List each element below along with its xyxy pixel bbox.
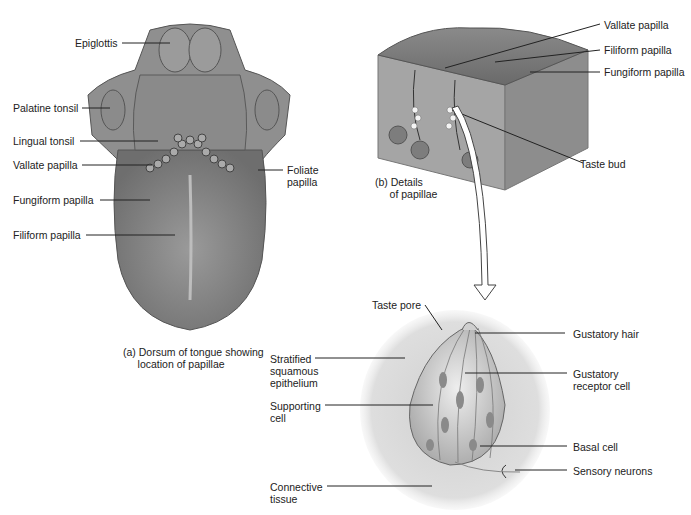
epiglottis-right bbox=[189, 28, 221, 72]
label-filiform-papilla-b: Filiform papilla bbox=[604, 44, 672, 56]
label-filiform-papilla-a: Filiform papilla bbox=[13, 229, 81, 241]
label-lingual-tonsil: Lingual tonsil bbox=[13, 135, 74, 147]
palatine-tonsil-right bbox=[255, 90, 279, 130]
median-sulcus bbox=[190, 175, 191, 300]
label-vallate-papilla-a: Vallate papilla bbox=[13, 159, 78, 171]
taste-bud-illustration bbox=[360, 310, 550, 510]
label-epiglottis: Epiglottis bbox=[75, 37, 118, 49]
taste-anatomy-figure: Epiglottis Palatine tonsil Lingual tonsi… bbox=[0, 0, 691, 515]
label-supporting-cell: Supporting cell bbox=[270, 400, 321, 424]
illustration-canvas bbox=[0, 0, 691, 515]
label-basal-cell: Basal cell bbox=[573, 441, 618, 453]
label-palatine-tonsil: Palatine tonsil bbox=[13, 102, 78, 114]
label-sensory-neurons: Sensory neurons bbox=[573, 465, 652, 477]
label-stratified-squamous-epithelium: Stratified squamous epithelium bbox=[270, 353, 318, 389]
caption-panel-a: (a) Dorsum of tongue showing location of… bbox=[123, 346, 264, 370]
label-gustatory-hair: Gustatory hair bbox=[573, 328, 639, 340]
label-connective-tissue: Connective tissue bbox=[270, 481, 323, 505]
label-taste-pore: Taste pore bbox=[372, 299, 421, 311]
label-fungiform-papilla-b: Fungiform papilla bbox=[604, 66, 685, 78]
label-vallate-papilla-b: Vallate papilla bbox=[604, 19, 669, 31]
label-fungiform-papilla-a: Fungiform papilla bbox=[13, 194, 94, 206]
papillae-block-illustration bbox=[378, 28, 588, 190]
epiglottis-left bbox=[159, 28, 191, 72]
label-gustatory-receptor-cell: Gustatory receptor cell bbox=[573, 368, 630, 392]
palatine-tonsil-left bbox=[101, 90, 125, 130]
label-taste-bud: Taste bud bbox=[580, 158, 626, 170]
caption-panel-b: (b) Details of papillae bbox=[375, 176, 437, 200]
tongue-illustration bbox=[88, 24, 290, 330]
label-foliate-papilla: Foliate papilla bbox=[287, 164, 319, 188]
